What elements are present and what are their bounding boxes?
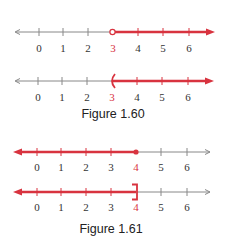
- svg-text:6: 6: [184, 161, 190, 173]
- tick-labels: 0 1 2 3 4 5 6: [34, 161, 190, 173]
- svg-text:4: 4: [135, 42, 141, 54]
- tick-labels: 0 1 2 3 4 5 6: [35, 91, 191, 103]
- svg-text:4: 4: [133, 161, 139, 173]
- number-line-1: 0 1 2 3 4 5 6: [15, 28, 215, 54]
- svg-text:5: 5: [158, 201, 164, 213]
- svg-text:1: 1: [58, 161, 64, 173]
- svg-text:3: 3: [108, 161, 114, 173]
- svg-text:4: 4: [133, 201, 139, 213]
- figure-caption: Figure 1.61: [79, 222, 142, 236]
- svg-text:2: 2: [83, 201, 89, 213]
- svg-text:1: 1: [58, 201, 64, 213]
- svg-text:0: 0: [35, 91, 41, 103]
- number-line-3: 0 1 2 3 4 5 6: [13, 148, 210, 173]
- svg-text:3: 3: [109, 91, 115, 103]
- svg-text:0: 0: [34, 161, 40, 173]
- svg-text:2: 2: [85, 42, 91, 54]
- left-arrow-icon: [13, 189, 22, 196]
- tick-labels: 0 1 2 3 4 5 6: [36, 42, 192, 54]
- svg-text:6: 6: [184, 201, 190, 213]
- closed-circle-icon: [133, 149, 138, 154]
- svg-text:3: 3: [110, 42, 116, 54]
- svg-text:5: 5: [160, 42, 166, 54]
- number-line-2: 0 1 2 3 4 5 6: [15, 74, 214, 103]
- right-arrow-icon: [206, 29, 215, 36]
- svg-text:5: 5: [159, 91, 165, 103]
- tick-labels: 0 1 2 3 4 5 6: [34, 201, 190, 213]
- left-arrow-icon: [13, 149, 22, 156]
- svg-text:0: 0: [36, 42, 42, 54]
- svg-text:0: 0: [34, 201, 40, 213]
- open-circle-icon: [110, 29, 115, 34]
- svg-text:2: 2: [84, 91, 90, 103]
- right-arrow-icon: [205, 78, 214, 85]
- number-line-4: 0 1 2 3 4 5 6: [13, 185, 210, 214]
- svg-text:1: 1: [59, 91, 65, 103]
- svg-text:1: 1: [60, 42, 66, 54]
- svg-text:6: 6: [186, 42, 192, 54]
- figure-caption: Figure 1.60: [81, 107, 144, 121]
- svg-text:2: 2: [83, 161, 89, 173]
- svg-text:5: 5: [158, 161, 164, 173]
- number-line-figures: 0 1 2 3 4 5 6 0 1 2 3 4 5 6 Figu: [0, 0, 230, 239]
- svg-text:3: 3: [108, 201, 114, 213]
- svg-text:6: 6: [185, 91, 191, 103]
- svg-text:4: 4: [134, 91, 140, 103]
